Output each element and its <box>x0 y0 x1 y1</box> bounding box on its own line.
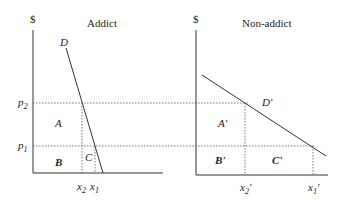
left-panel-title: Addict <box>87 18 117 29</box>
right-y-axis-label: $ <box>193 14 199 25</box>
diagram-canvas <box>0 0 347 200</box>
p1-label: p1 <box>18 140 28 154</box>
x1-prime-label: x1′ <box>308 182 319 196</box>
region-c-label: C <box>85 152 92 163</box>
region-a-prime-label: A' <box>218 118 227 129</box>
x1-label: x1 <box>90 181 99 195</box>
p2-label: p2 <box>18 97 28 111</box>
region-b-label: B <box>55 157 62 168</box>
left-y-axis-label: $ <box>30 14 36 25</box>
region-c-prime-label: C' <box>272 155 282 166</box>
region-b-prime-label: B' <box>215 155 225 166</box>
x2-label: x2 <box>77 181 86 195</box>
x2-prime-label: x2′ <box>240 182 251 196</box>
right-demand-curve <box>202 75 326 156</box>
right-curve-label: D' <box>262 97 272 108</box>
right-panel-title: Non-addict <box>242 18 291 29</box>
left-curve-label: D <box>60 37 68 48</box>
region-a-label: A <box>55 118 62 129</box>
